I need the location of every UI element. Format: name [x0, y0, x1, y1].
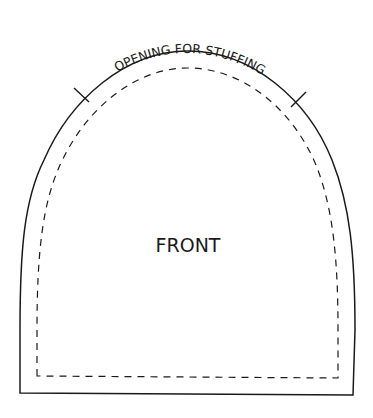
opening-label-text: OPENING FOR STUFFING	[112, 41, 269, 78]
left-notch-mark	[74, 88, 89, 102]
inner-seam-line	[37, 68, 338, 378]
piece-label: FRONT	[156, 234, 221, 256]
sewing-pattern-diagram: OPENING FOR STUFFING FRONT	[0, 0, 373, 418]
opening-label: OPENING FOR STUFFING	[112, 41, 269, 78]
outer-cut-line	[20, 51, 355, 395]
